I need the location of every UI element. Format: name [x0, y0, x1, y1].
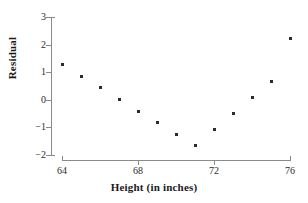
y-tick-label-−1: −1	[22, 122, 46, 132]
x-tick-label-64: 64	[47, 166, 77, 176]
y-tick-label-2: 2	[22, 40, 46, 50]
x-tick-label-68: 68	[123, 166, 153, 176]
y-tick-2	[46, 45, 51, 46]
data-point	[270, 80, 273, 83]
x-tick-76	[290, 156, 291, 161]
x-axis-title: Height (in inches)	[0, 181, 308, 193]
y-axis-cap-0	[51, 155, 55, 156]
data-point	[80, 75, 83, 78]
data-point	[156, 121, 159, 124]
x-tick-label-76: 76	[275, 166, 305, 176]
y-axis-title: Residual	[6, 18, 18, 98]
data-point	[232, 112, 235, 115]
x-axis-line	[62, 160, 291, 161]
y-axis-cap-1	[51, 17, 55, 18]
y-tick-label-−2: −2	[22, 150, 46, 160]
data-point	[99, 86, 102, 89]
y-tick-label-0: 0	[22, 95, 46, 105]
data-point	[251, 96, 254, 99]
y-tick-0	[46, 100, 51, 101]
data-point	[137, 110, 140, 113]
y-tick-label-3: 3	[22, 12, 46, 22]
residual-scatter-chart: −2−10123 64687276 Residual Height (in in…	[0, 0, 308, 203]
y-tick-1	[46, 72, 51, 73]
data-point	[289, 37, 292, 40]
data-point	[61, 63, 64, 66]
data-point	[175, 133, 178, 136]
x-tick-64	[62, 156, 63, 161]
data-point	[194, 144, 197, 147]
y-tick-label-1: 1	[22, 67, 46, 77]
data-point	[213, 128, 216, 131]
y-axis-line	[51, 17, 52, 156]
x-tick-label-72: 72	[199, 166, 229, 176]
y-tick-−1	[46, 127, 51, 128]
data-point	[118, 98, 121, 101]
